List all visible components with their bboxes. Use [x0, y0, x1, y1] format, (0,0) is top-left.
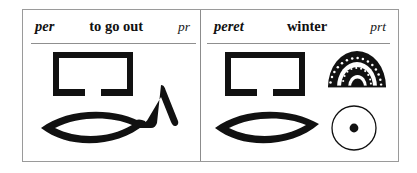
meaning-per: to go out: [54, 18, 178, 35]
sun-disc-hieroglyph: [329, 103, 379, 153]
house-hieroglyph: [49, 48, 137, 100]
house-hieroglyph: [221, 48, 309, 100]
entry-header-peret: peret winter prt: [201, 10, 398, 43]
table-frame: per to go out pr: [22, 9, 399, 162]
mouth-hieroglyph: [211, 105, 323, 151]
hieroglyph-table-figure: per to go out pr: [0, 0, 417, 173]
meaning-peret: winter: [244, 18, 370, 35]
transliteration-per: per: [35, 18, 54, 35]
glyph-area-per: [23, 43, 200, 161]
transliteration-peret: peret: [214, 18, 244, 35]
bread-loaf-hieroglyph: [326, 49, 388, 89]
code-peret: prt: [370, 19, 386, 35]
table-cell-per: per to go out pr: [23, 10, 200, 161]
entry-header-per: per to go out pr: [23, 10, 200, 43]
glyph-area-peret: [201, 43, 398, 161]
walking-legs-hieroglyph: [131, 83, 183, 131]
code-per: pr: [178, 19, 190, 35]
table-cell-peret: peret winter prt: [200, 10, 398, 161]
